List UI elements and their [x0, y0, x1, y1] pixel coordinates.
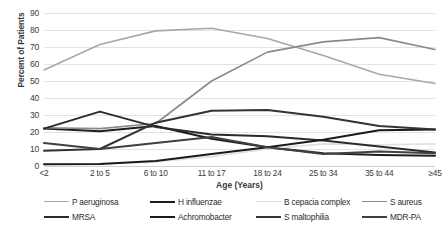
legend-item-h-influenzae[interactable]: H influenzae	[150, 194, 222, 209]
x-tick-0: <2	[39, 168, 48, 178]
y-tick-40: 40	[30, 93, 39, 103]
x-tick-1: 2 to 5	[90, 168, 110, 178]
legend-row-1: P aeruginosaH influenzaeB cepacia comple…	[44, 194, 447, 209]
y-tick-10: 10	[30, 144, 39, 154]
x-tick-2: 6 to 10	[144, 168, 168, 178]
y-tick-20: 20	[30, 127, 39, 137]
legend-label: S aureus	[390, 197, 422, 207]
x-tick-3: 11 to 17	[198, 168, 226, 178]
x-axis-title: Age (Years)	[44, 180, 435, 190]
legend-item-s-maltophilia[interactable]: S maltophilia	[256, 209, 329, 224]
plot-area	[44, 13, 435, 166]
legend-item-mrsa[interactable]: MRSA	[44, 209, 95, 224]
legend-label: MDR-PA	[390, 212, 421, 222]
legend-swatch-icon	[44, 201, 69, 202]
legend-swatch-icon	[44, 216, 69, 218]
x-tick-5: 25 to 34	[309, 168, 337, 178]
legend-label: H influenzae	[178, 197, 222, 207]
legend-swatch-icon	[150, 201, 175, 203]
chart-figure: Percent of Patients 0102030405060708090 …	[0, 0, 447, 229]
legend-swatch-icon	[150, 216, 175, 218]
y-axis-tick-labels: 0102030405060708090	[0, 0, 44, 229]
legend-label: Achromobacter	[178, 212, 232, 222]
series-line-s-aureus	[44, 38, 435, 129]
x-tick-4: 18 to 24	[253, 168, 281, 178]
series-line-p-aeruginosa	[44, 28, 435, 83]
y-tick-0: 0	[34, 161, 39, 171]
legend-item-b-cepacia-complex[interactable]: B cepacia complex	[256, 194, 350, 209]
y-tick-50: 50	[30, 76, 39, 86]
legend-swatch-icon	[256, 201, 281, 202]
legend-label: P aeruginosa	[72, 197, 118, 207]
legend-item-mdr-pa[interactable]: MDR-PA	[362, 209, 421, 224]
x-tick-6: 35 to 44	[365, 168, 393, 178]
legend-swatch-icon	[362, 216, 387, 218]
gridline-0	[44, 166, 435, 167]
series-lines	[44, 13, 435, 166]
y-tick-80: 80	[30, 25, 39, 35]
series-line-mrsa	[44, 112, 435, 153]
chart-legend: P aeruginosaH influenzaeB cepacia comple…	[44, 194, 447, 227]
legend-item-p-aeruginosa[interactable]: P aeruginosa	[44, 194, 118, 209]
legend-swatch-icon	[362, 201, 387, 202]
legend-item-s-aureus[interactable]: S aureus	[362, 194, 422, 209]
legend-item-achromobacter[interactable]: Achromobacter	[150, 209, 232, 224]
legend-label: B cepacia complex	[284, 197, 350, 207]
legend-row-2: MRSAAchromobacterS maltophiliaMDR-PA	[44, 209, 447, 224]
y-tick-30: 30	[30, 110, 39, 120]
legend-label: MRSA	[72, 212, 95, 222]
x-tick-7: ≥45	[428, 168, 441, 178]
legend-swatch-icon	[256, 216, 281, 218]
legend-label: S maltophilia	[284, 212, 329, 222]
y-tick-70: 70	[30, 42, 39, 52]
y-tick-60: 60	[30, 59, 39, 69]
y-tick-90: 90	[30, 8, 39, 18]
